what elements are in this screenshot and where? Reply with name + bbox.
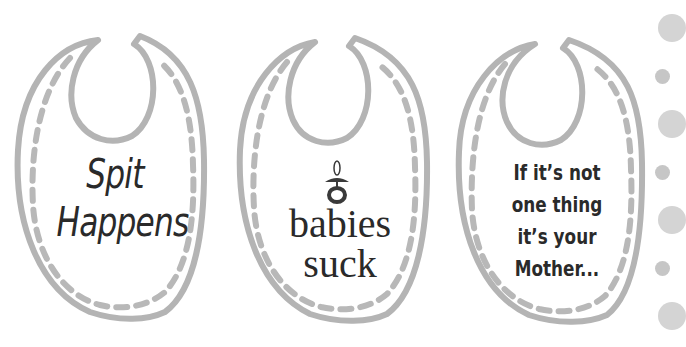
slogan-line: Happens [57, 198, 174, 246]
slogan-line: If it’s not [493, 157, 621, 189]
slogan-line: it’s your [493, 221, 621, 253]
decorative-dot-icon [658, 302, 686, 330]
slogan-line: one thing [493, 189, 621, 221]
slogan-line: babies [245, 204, 435, 244]
decorative-dot-icon [655, 69, 670, 84]
bib-slogan: Spit Happens [57, 150, 174, 246]
pacifier-icon [322, 160, 352, 206]
bib-slogan: If it’s not one thing it’s your Mother..… [493, 157, 621, 285]
decorative-dot-icon [658, 206, 686, 234]
bib-slogan: babies suck [245, 204, 435, 284]
decorative-dot-icon [658, 14, 686, 42]
slogan-line: Spit [57, 150, 174, 198]
slogan-line: suck [245, 244, 435, 284]
bib-spit-happens: Spit Happens [0, 0, 230, 347]
decorative-dot-icon [655, 261, 670, 276]
decorative-dot-icon [658, 110, 686, 138]
slogan-line: Mother... [493, 253, 621, 285]
bib-babies-suck: babies suck [225, 0, 455, 347]
decorative-dot-icon [655, 165, 670, 180]
bib-mother: If it’s not one thing it’s your Mother..… [447, 0, 677, 347]
